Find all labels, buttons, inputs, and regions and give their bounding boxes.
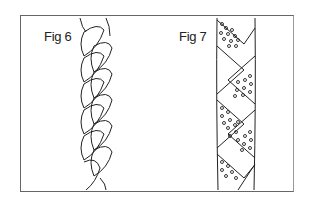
fig7-braid [217,18,256,190]
fig6-braid [80,18,112,190]
braid-illustrations [0,0,312,206]
fig7-dots [220,23,253,180]
